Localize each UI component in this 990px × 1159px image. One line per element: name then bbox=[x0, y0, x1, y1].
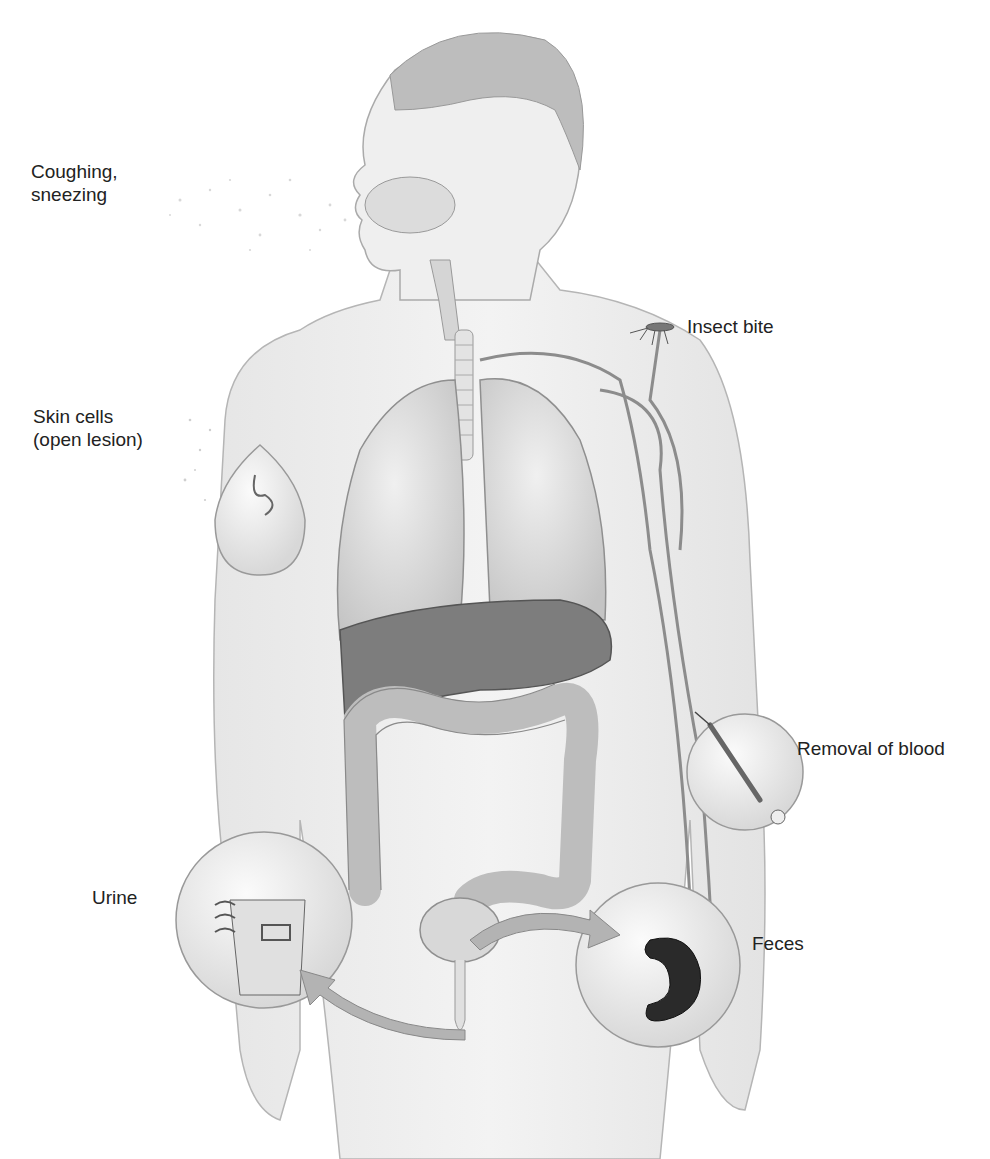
body-illustration bbox=[0, 0, 990, 1159]
label-skin-cells: Skin cells (open lesion) bbox=[33, 405, 143, 451]
label-insect-bite: Insect bite bbox=[687, 315, 774, 338]
label-removal-of-blood: Removal of blood bbox=[797, 737, 945, 760]
cough-spray bbox=[169, 179, 346, 251]
label-feces: Feces bbox=[752, 932, 804, 955]
feces-inset bbox=[576, 883, 740, 1047]
blood-removal-inset bbox=[687, 712, 803, 830]
label-urine: Urine bbox=[92, 886, 137, 909]
label-coughing-sneezing: Coughing, sneezing bbox=[31, 160, 118, 206]
skin-particles bbox=[184, 419, 212, 501]
